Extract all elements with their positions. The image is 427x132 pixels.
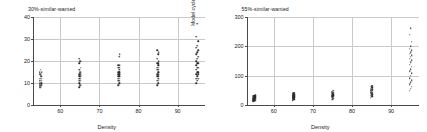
x-tick-label: 60 [271,108,277,114]
data-point [197,78,199,80]
data-point [157,69,159,71]
data-point [196,65,198,67]
data-point [196,78,198,80]
x-tick-label: 70 [310,108,316,114]
data-point [78,58,80,60]
data-point [157,82,159,84]
data-point [196,58,198,60]
data-point [410,56,412,58]
data-point [157,62,159,64]
data-point [294,92,296,94]
data-point [79,82,81,84]
data-point [118,67,120,69]
data-point [411,73,413,75]
x-tick-label: 60 [57,108,63,114]
data-point [119,76,121,78]
data-point [409,34,411,36]
data-point [117,84,119,86]
data-point [196,60,198,62]
data-point [411,54,413,56]
data-point [410,51,412,53]
data-point [119,65,121,67]
y-gridline [247,76,419,77]
data-point [40,69,42,71]
data-point [157,54,159,56]
panel-title-left: 30%-similar-wanted [28,6,75,12]
data-point [409,58,411,60]
data-point [410,75,412,77]
x-axis-label-left: Density [0,124,214,130]
plot-area-right: 010020030060708090 [247,17,419,105]
data-point [40,84,42,86]
data-point [119,78,121,80]
data-point [158,71,160,73]
data-point [156,80,158,82]
y-axis-line [247,17,248,105]
y-gridline [247,46,419,47]
data-point [410,27,412,29]
data-point [80,84,82,86]
panel-right: 55%-similar-wanted Model cycles to stati… [214,0,427,132]
y-tick-label: 300 [235,14,244,20]
data-point [158,51,160,53]
data-point [78,62,80,64]
x-gridline [274,17,275,105]
data-point [158,73,160,75]
y-gridline [33,17,205,18]
data-point [409,77,411,79]
y-tick-label: 20 [24,58,30,64]
data-point [409,90,411,92]
x-tick-label: 80 [136,108,142,114]
x-gridline [178,17,179,105]
data-point [117,78,119,80]
data-point [80,73,82,75]
data-point [411,86,413,88]
data-point [78,87,80,89]
data-point [156,49,158,51]
data-point [197,49,199,51]
data-point [41,78,43,80]
data-point [410,46,412,48]
panel-title-right: 55%-similar-wanted [242,6,289,12]
data-point [78,73,80,75]
x-gridline [313,17,314,105]
data-point [410,81,412,83]
data-point [39,80,41,82]
data-point [41,71,43,73]
data-point [119,54,121,56]
x-tick-label: 90 [388,108,394,114]
data-point [80,71,82,73]
data-point [80,60,82,62]
y-tick-label: 40 [24,14,30,20]
data-point [158,78,160,80]
data-point [158,65,160,67]
x-axis-line [247,105,419,106]
y-axis-line [33,17,34,105]
data-point [372,85,374,87]
data-point [156,73,158,75]
data-point [119,73,121,75]
data-point [79,80,81,82]
data-point [410,88,412,90]
data-point [40,73,42,75]
data-point [41,82,43,84]
panel-left: 30%-similar-wanted Model cycles to stati… [0,0,214,132]
data-point [156,58,158,60]
data-point [196,82,198,84]
x-tick-label: 70 [96,108,102,114]
data-point [411,50,413,52]
data-point [119,71,121,73]
data-point [41,80,43,82]
x-tick-label: 90 [175,108,181,114]
data-point [118,56,120,58]
data-point [197,71,199,73]
data-point [411,66,413,68]
data-point [39,78,41,80]
data-point [196,69,198,71]
data-point [409,64,411,66]
data-point [80,67,82,69]
data-point [79,69,81,71]
data-point [196,36,198,38]
data-point [39,71,41,73]
data-point [156,84,158,86]
